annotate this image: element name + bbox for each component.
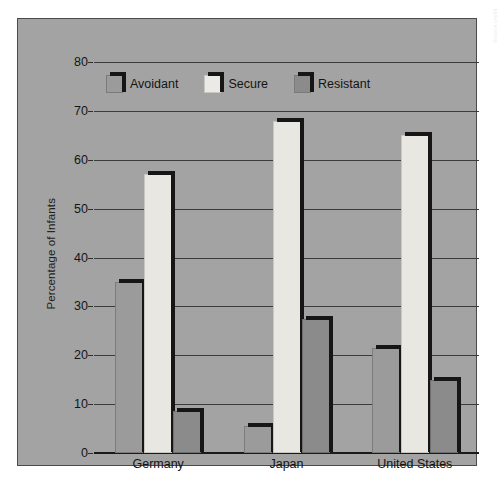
bar-united-states-secure [401,135,429,453]
bar-united-states-avoidant [372,348,400,453]
y-tick-label: 50 [44,202,88,216]
legend-swatch-shadow-right [310,72,314,92]
legend-swatch-resistant [294,75,311,93]
x-axis-tick-labels: GermanyJapanUnited States [94,457,479,481]
bar-germany-resistant [173,411,201,453]
bar-japan-secure [273,121,301,453]
y-axis-tick-labels: 01020304050607080 [38,62,88,453]
legend-item-avoidant: Avoidant [106,75,178,93]
chart-legend: AvoidantSecureResistant [106,71,396,97]
figure-container: Source credit Percentage of Infants 0102… [0,0,504,494]
plot-area [94,62,479,453]
gridline [94,111,479,112]
bar-shadow-right [171,171,175,452]
y-tick-mark [88,111,93,112]
y-tick-mark [88,306,93,307]
y-tick-mark [88,258,93,259]
bar-shadow-right [329,316,333,452]
margin-credit-label: Source credit [492,8,498,43]
legend-item-resistant: Resistant [294,75,370,93]
x-tick-label-united-states: United States [377,457,452,471]
legend-label-resistant: Resistant [318,77,370,91]
y-tick-label: 70 [44,104,88,118]
y-tick-label: 60 [44,153,88,167]
x-tick-label-japan: Japan [269,457,303,471]
bar-germany-avoidant [115,282,143,453]
y-tick-mark [88,209,93,210]
y-tick-label: 20 [44,348,88,362]
y-tick-label: 10 [44,397,88,411]
y-tick-mark [88,453,93,454]
legend-swatch-shadow-right [122,72,126,92]
bar-united-states-resistant [430,380,458,453]
bar-shadow-right [457,377,461,452]
gridline [94,62,479,63]
y-tick-label: 80 [44,55,88,69]
x-tick-label-germany: Germany [132,457,183,471]
bar-japan-avoidant [244,426,272,453]
legend-label-avoidant: Avoidant [130,77,178,91]
y-tick-mark [88,355,93,356]
legend-swatch-secure [204,75,221,93]
legend-swatch-avoidant [106,75,123,93]
y-tick-mark [88,62,93,63]
y-tick-mark [88,404,93,405]
chart-panel: Percentage of Infants 01020304050607080 … [17,18,477,466]
margin-credit-text: Source credit [488,8,502,188]
legend-label-secure: Secure [228,77,268,91]
bar-germany-secure [144,174,172,453]
y-tick-label: 0 [44,446,88,460]
bar-shadow-right [200,408,204,452]
bar-japan-resistant [302,319,330,453]
y-tick-label: 40 [44,251,88,265]
y-tick-mark [88,160,93,161]
y-tick-label: 30 [44,299,88,313]
legend-swatch-shadow-right [220,72,224,92]
legend-item-secure: Secure [204,75,268,93]
